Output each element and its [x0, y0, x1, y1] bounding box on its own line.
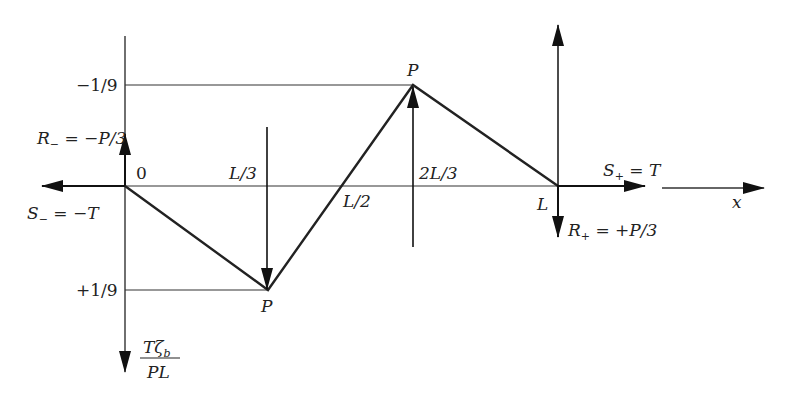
- label-plus-ninth: +1/9: [76, 280, 118, 300]
- label-p-top: P: [406, 60, 419, 80]
- label-2l3: 2L/3: [418, 163, 458, 183]
- label-y-numerator: Tζb: [143, 337, 171, 360]
- label-l3: L/3: [228, 163, 257, 183]
- influence-line-diagram: −1/9 +1/9 R− = −P/3 S− = −T 0 L/3 L/2 2L…: [0, 0, 788, 396]
- label-s-minus: S− = −T: [27, 203, 100, 226]
- influence-line: [125, 85, 558, 290]
- label-x: x: [732, 192, 742, 212]
- label-s-plus: S+ = T: [603, 160, 662, 183]
- label-p-bottom: P: [260, 296, 273, 316]
- label-r-plus: R+ = +P/3: [567, 220, 657, 243]
- label-l: L: [536, 194, 548, 214]
- label-zero: 0: [136, 163, 147, 183]
- label-l2: L/2: [342, 191, 371, 211]
- label-minus-ninth: −1/9: [76, 75, 118, 95]
- label-r-minus: R− = −P/3: [36, 128, 126, 151]
- label-y-denominator: PL: [146, 362, 170, 382]
